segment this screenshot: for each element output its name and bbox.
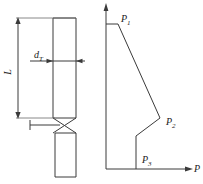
lower-pipe-body [55, 133, 76, 177]
point-p3-label: P3 [141, 154, 152, 168]
point-p1-subscript: 1 [127, 19, 131, 27]
load-chart-group: P1 P2 P3 P [104, 3, 201, 174]
point-p2-subscript: 2 [172, 122, 176, 130]
length-label: L [2, 69, 13, 76]
point-p3-subscript: 3 [147, 160, 152, 168]
upper-pipe-body [53, 18, 76, 118]
point-p3-base: P [141, 154, 148, 165]
diameter-arrow-left [47, 59, 54, 64]
point-p2-label: P2 [165, 116, 176, 130]
x-axis-label: P [193, 163, 200, 174]
technical-figure: L dT P1 [0, 0, 203, 184]
diameter-label: dT [34, 49, 44, 63]
point-p1-label: P1 [120, 13, 131, 27]
point-p1-base: P [120, 13, 127, 24]
figure-svg: L dT P1 [0, 0, 203, 184]
point-p2-base: P [165, 116, 172, 127]
diameter-arrow-right [76, 59, 83, 64]
chart-y-axis-arrow [104, 3, 109, 11]
load-distribution-curve [106, 24, 160, 169]
left-drawing-group: L dT [2, 17, 85, 177]
chart-x-axis-arrow [185, 167, 193, 172]
